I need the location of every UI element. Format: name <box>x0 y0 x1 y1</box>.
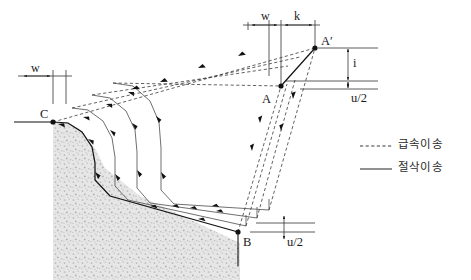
node-Ap <box>312 45 317 50</box>
dimension-label-i: i <box>353 57 356 70</box>
dimension-label-w-left: w <box>31 62 40 74</box>
rapid-path-3 <box>92 66 288 95</box>
dimension-label-u2-bottom: u/2 <box>287 236 303 249</box>
node-C <box>50 119 55 124</box>
legend-swatches <box>360 146 392 169</box>
dimension-label-k: k <box>294 10 300 22</box>
legend-label-cutting: 절삭이송 <box>398 162 443 174</box>
node-B <box>235 229 240 234</box>
workpiece-material <box>53 122 240 280</box>
rapid-return-4 <box>269 48 315 210</box>
node-A <box>278 83 283 88</box>
rapid-path-4 <box>113 83 281 86</box>
dimension-label-w-top: w <box>261 10 270 22</box>
dimension-label-u2-right: u/2 <box>351 92 367 105</box>
legend-label-rapid: 급속이송 <box>398 139 443 151</box>
dimension-top-wk <box>243 20 320 88</box>
point-label-A-prime: A′ <box>321 35 333 48</box>
rapid-direction-arrows <box>132 52 296 152</box>
rapid-path-1 <box>53 48 315 122</box>
dimension-right <box>286 48 378 89</box>
dimension-left-w <box>18 70 72 104</box>
point-label-B: B <box>243 236 251 249</box>
dimension-bottom-u2 <box>250 216 315 239</box>
point-label-A: A <box>262 93 271 106</box>
point-label-C: C <box>40 108 48 121</box>
diagram-canvas: C A A′ B w k w i u/2 u/2 급속이송 절삭이송 <box>0 0 471 280</box>
